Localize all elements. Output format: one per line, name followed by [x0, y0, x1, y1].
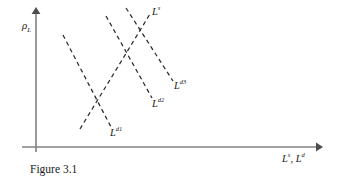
- x-axis-arrowhead: [316, 143, 323, 152]
- figure-container: ρL Ls, Ld Ls Ld3 Ld2 Ld1 Figure 3.1: [0, 0, 338, 188]
- curve-label-ls: Ls: [152, 5, 160, 17]
- curve-label-ld2-superscript: d2: [158, 96, 165, 103]
- demand-curve-ld1: [63, 35, 111, 127]
- curve-label-ld3: Ld3: [174, 79, 186, 91]
- y-axis-arrowhead: [32, 7, 41, 14]
- curve-label-ls-superscript: s: [158, 4, 161, 11]
- x-axis-label-separator: ,: [290, 153, 293, 164]
- demand-curve-ld2: [106, 16, 152, 98]
- curves-group: [63, 8, 173, 129]
- curve-label-ld2: Ld2: [152, 97, 164, 109]
- demand-curve-ld3: [126, 8, 173, 81]
- y-axis-label: ρL: [22, 20, 31, 34]
- curve-label-ld1-superscript: d1: [116, 125, 123, 132]
- x-axis-label: Ls, Ld: [282, 152, 305, 164]
- y-axis-label-subscript: L: [27, 26, 31, 33]
- figure-caption: Figure 3.1: [30, 163, 77, 175]
- curve-label-ld3-superscript: d3: [180, 78, 187, 85]
- x-axis-label-superscript-2: d: [301, 151, 304, 158]
- curve-label-ld1: Ld1: [110, 126, 122, 138]
